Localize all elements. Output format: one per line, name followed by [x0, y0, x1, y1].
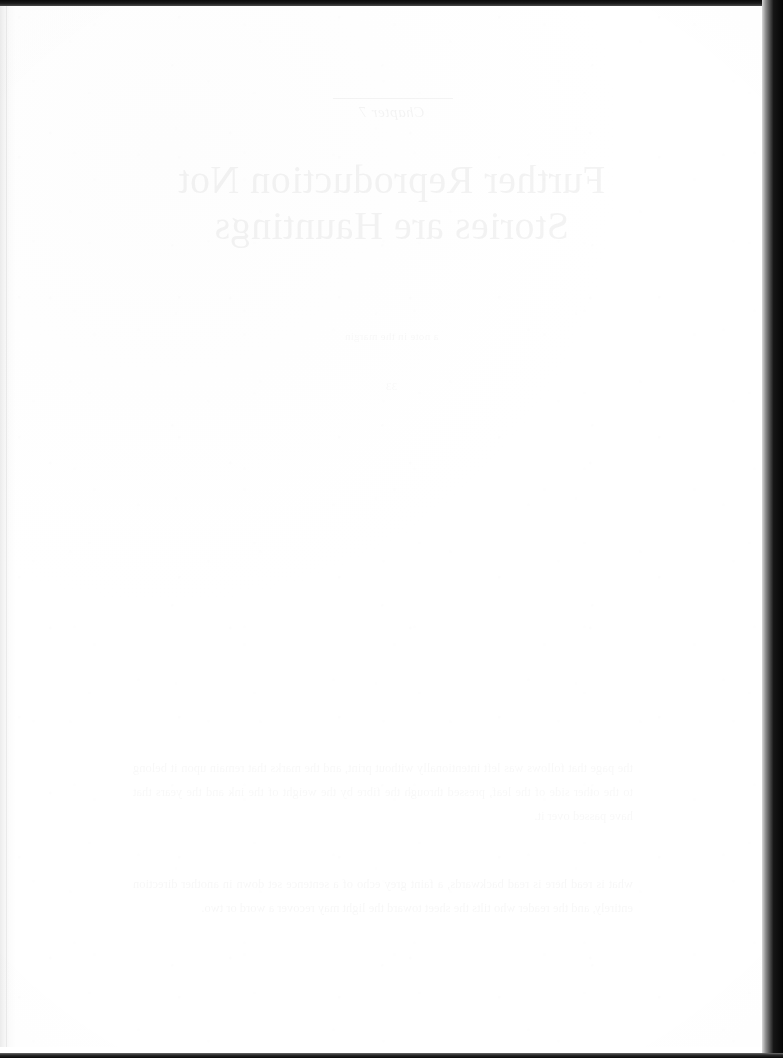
paper-surface: [0, 6, 762, 1047]
scan-edge-right: [762, 0, 783, 1058]
paper-grain-texture: [0, 6, 762, 1047]
scanned-page: Chapter 7 Further Reproduction Not Stori…: [0, 0, 783, 1058]
scan-edge-bottom: [0, 1053, 783, 1058]
